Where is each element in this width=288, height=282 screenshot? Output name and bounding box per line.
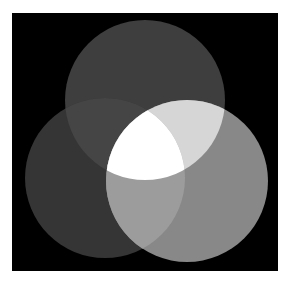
venn-diagram bbox=[0, 0, 288, 282]
venn-diagram-canvas bbox=[0, 0, 288, 282]
